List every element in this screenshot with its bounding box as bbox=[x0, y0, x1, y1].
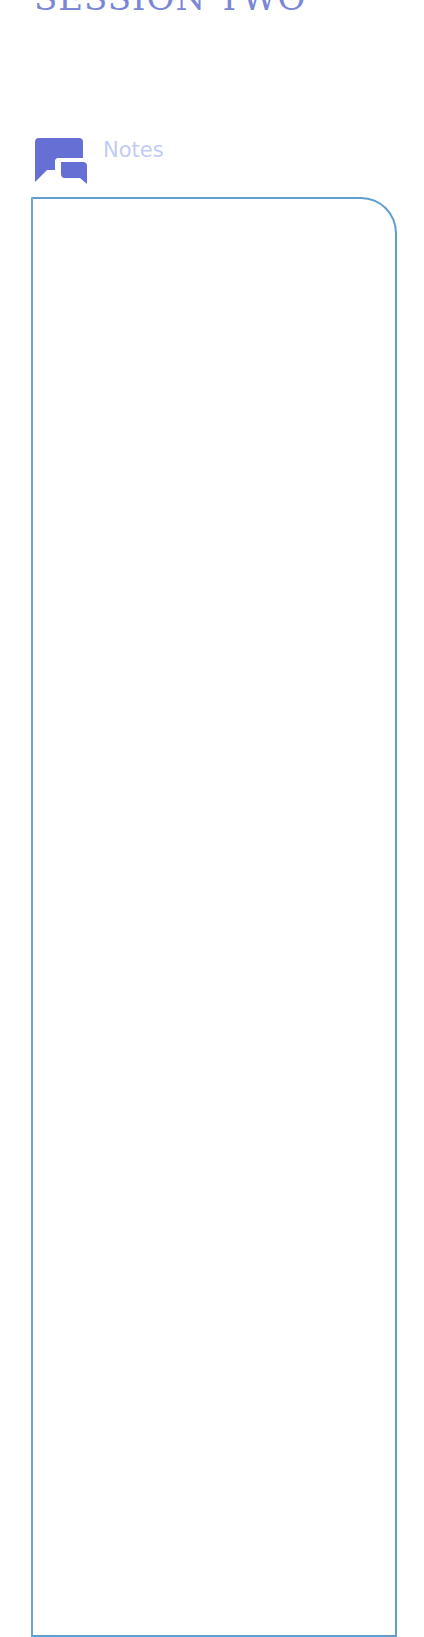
notes-textarea[interactable] bbox=[31, 197, 397, 1637]
session-title: SESSION TWO bbox=[34, 0, 306, 18]
chat-bubbles-icon bbox=[33, 136, 89, 184]
notes-header: Notes bbox=[33, 136, 164, 184]
notes-label: Notes bbox=[103, 138, 164, 162]
